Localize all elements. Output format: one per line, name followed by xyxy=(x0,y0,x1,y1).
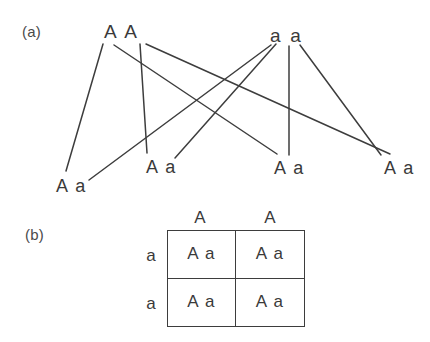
cross-line-parentright-offspring2 xyxy=(175,44,276,158)
cross-line-parentleft-offspring2 xyxy=(140,44,147,153)
offspring-genotype-3: A a xyxy=(274,159,305,177)
offspring-genotype-1: A a xyxy=(56,177,87,195)
cross-line-parentleft-offspring3 xyxy=(114,45,277,154)
cross-line-group xyxy=(66,44,390,180)
cross-line-parentright-offspring4 xyxy=(300,45,381,155)
cross-line-parentright-offspring1 xyxy=(89,45,271,180)
punnett-cell-r2c2: A a xyxy=(236,279,304,327)
punnett-square: A a A a A a A a xyxy=(167,230,305,327)
punnett-column-header-1: A xyxy=(188,208,212,228)
panel-a-letter: (a) xyxy=(22,24,41,39)
parent-genotype-right: a a xyxy=(270,26,303,45)
punnett-row-header-1: a xyxy=(143,246,159,266)
cross-line-parentleft-offspring1 xyxy=(66,44,103,171)
parent-genotype-left: A A xyxy=(104,22,139,41)
punnett-cell-r1c1: A a xyxy=(168,231,236,279)
punnett-row-header-2: a xyxy=(143,294,159,314)
offspring-genotype-4: A a xyxy=(384,159,415,177)
punnett-cell-r2c1: A a xyxy=(168,279,236,327)
genetics-cross-figure: (a) A A a a A a A a A a A a (b) A A a a … xyxy=(0,0,430,342)
offspring-genotype-2: A a xyxy=(146,158,177,176)
panel-b-letter: (b) xyxy=(25,227,44,242)
punnett-column-header-2: A xyxy=(258,208,282,228)
punnett-cell-r1c2: A a xyxy=(236,231,304,279)
cross-line-parentleft-offspring4 xyxy=(146,44,390,154)
